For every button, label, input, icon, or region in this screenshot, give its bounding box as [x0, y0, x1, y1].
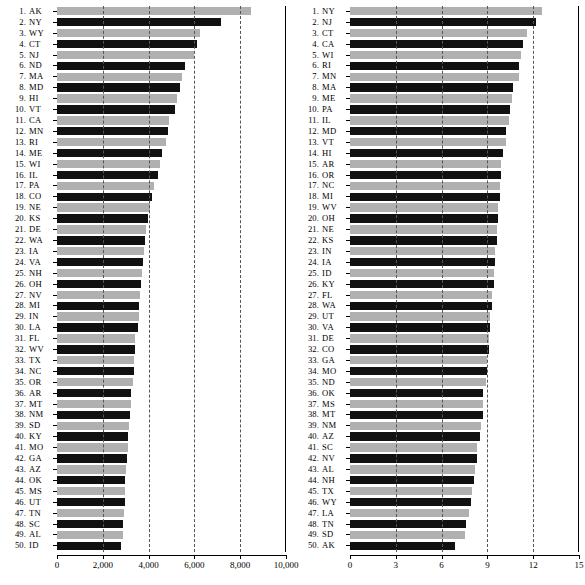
row-rank: 44. [0, 476, 29, 485]
chart-row: 36.AR [0, 388, 292, 399]
row-category-label: DE [322, 334, 346, 343]
bar-cell [57, 366, 292, 377]
row-category-label: IA [322, 258, 346, 267]
bar [350, 302, 492, 310]
row-rank: 12. [293, 127, 322, 136]
chart-row: 2.NJ [293, 17, 585, 28]
bar-cell [57, 181, 292, 192]
chart-row: 15.WI [0, 159, 292, 170]
row-category-label: OR [29, 378, 53, 387]
chart-row: 5.NJ [0, 50, 292, 61]
bar [350, 182, 500, 190]
row-category-label: ME [29, 149, 53, 158]
bar [57, 312, 139, 320]
chart-row: 40.KY [0, 431, 292, 442]
chart-row: 16.IL [0, 170, 292, 181]
bar-cell [57, 202, 292, 213]
row-category-label: NE [322, 225, 346, 234]
row-category-label: OK [29, 476, 53, 485]
bar [57, 149, 162, 157]
bar [350, 531, 465, 539]
x-tick [103, 555, 104, 559]
bar-cell [57, 279, 292, 290]
bar-cell [350, 213, 585, 224]
bar-cell [57, 344, 292, 355]
panel-right-title [293, 0, 585, 3]
chart-row: 10.PA [293, 104, 585, 115]
bar [57, 236, 145, 244]
x-tick [487, 555, 488, 559]
row-rank: 6. [293, 61, 322, 70]
bar [57, 411, 130, 419]
chart-row: 41.SC [293, 442, 585, 453]
bar [350, 18, 536, 26]
row-rank: 19. [0, 203, 29, 212]
bar-cell [57, 399, 292, 410]
row-category-label: AL [29, 530, 53, 539]
row-category-label: ID [322, 269, 346, 278]
row-rank: 33. [293, 356, 322, 365]
bar-cell [57, 61, 292, 72]
bar [350, 465, 475, 473]
row-rank: 27. [0, 291, 29, 300]
chart-row: 49.SD [293, 530, 585, 541]
row-category-label: NV [322, 454, 346, 463]
chart-row: 13.RI [0, 137, 292, 148]
bar-cell [57, 159, 292, 170]
row-category-label: CO [322, 345, 346, 354]
bar [57, 465, 126, 473]
row-rank: 37. [293, 400, 322, 409]
x-tick-label: 3 [394, 560, 399, 571]
row-rank: 22. [293, 236, 322, 245]
chart-row: 28.WA [293, 300, 585, 311]
bar [350, 498, 471, 506]
bar-cell [350, 366, 585, 377]
bar-cell [57, 540, 292, 551]
row-category-label: WI [29, 160, 53, 169]
chart-row: 19.WV [293, 202, 585, 213]
bar-cell [350, 311, 585, 322]
row-category-label: MS [29, 487, 53, 496]
row-category-label: MT [29, 400, 53, 409]
bar-cell [57, 148, 292, 159]
row-rank: 28. [293, 301, 322, 310]
row-rank: 13. [0, 138, 29, 147]
chart-row: 21.DE [0, 224, 292, 235]
row-rank: 14. [293, 149, 322, 158]
x-tick [442, 555, 443, 559]
chart-row: 36.OK [293, 388, 585, 399]
bar [57, 182, 154, 190]
chart-row: 33.GA [293, 355, 585, 366]
row-rank: 40. [293, 432, 322, 441]
chart-row: 22.WA [0, 235, 292, 246]
row-category-label: SD [29, 421, 53, 430]
bar-cell [350, 137, 585, 148]
row-rank: 31. [293, 334, 322, 343]
row-rank: 42. [293, 454, 322, 463]
row-rank: 35. [293, 378, 322, 387]
bar-cell [350, 333, 585, 344]
bar-cell [57, 126, 292, 137]
bar [350, 40, 523, 48]
row-rank: 8. [293, 83, 322, 92]
row-rank: 3. [293, 29, 322, 38]
bar [57, 291, 140, 299]
row-rank: 45. [293, 487, 322, 496]
chart-row: 47.LA [293, 508, 585, 519]
row-rank: 36. [0, 389, 29, 398]
row-rank: 13. [293, 138, 322, 147]
row-rank: 35. [0, 378, 29, 387]
bar [57, 400, 131, 408]
chart-row: 47.TN [0, 508, 292, 519]
bar [57, 29, 200, 37]
x-tick-label: 9 [485, 560, 490, 571]
row-category-label: NH [322, 476, 346, 485]
bar [350, 214, 498, 222]
chart-row: 27.FL [293, 290, 585, 301]
bar [350, 509, 469, 517]
chart-row: 33.TX [0, 355, 292, 366]
bar [57, 247, 144, 255]
bar-cell [57, 355, 292, 366]
row-rank: 8. [0, 83, 29, 92]
row-category-label: AZ [322, 432, 346, 441]
